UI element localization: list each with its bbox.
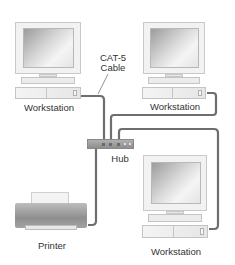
workstation-bottom-right xyxy=(143,155,213,240)
monitor-screen xyxy=(23,28,74,68)
monitor xyxy=(143,155,207,211)
workstation-top-left xyxy=(15,22,83,102)
workstation-top-right xyxy=(143,22,211,102)
printer-tray xyxy=(25,225,77,230)
computer-tower xyxy=(15,87,81,99)
label-workstation-top-right: Workstation xyxy=(140,101,210,112)
hub-port xyxy=(102,143,105,146)
cable-printer-hub xyxy=(88,148,96,225)
monitor-screen xyxy=(150,28,199,68)
computer-tower xyxy=(142,225,208,238)
monitor-base xyxy=(148,77,200,84)
monitor xyxy=(143,22,205,74)
monitor-base xyxy=(21,77,75,84)
label-hub: Hub xyxy=(105,153,135,164)
monitor-base xyxy=(148,214,202,222)
monitor-screen xyxy=(151,162,201,204)
label-workstation-top-left: Workstation xyxy=(14,102,84,113)
hub-led xyxy=(124,143,126,145)
label-cat5-line2: Cable xyxy=(97,63,129,73)
label-printer: Printer xyxy=(22,240,82,251)
hub-led xyxy=(129,143,131,145)
printer xyxy=(15,192,89,234)
hub-port xyxy=(109,143,112,146)
hub-port xyxy=(117,143,120,146)
label-cat5: CAT-5 Cable xyxy=(97,53,129,73)
monitor xyxy=(15,22,81,74)
label-workstation-bottom-right: Workstation xyxy=(140,246,212,257)
hub xyxy=(87,139,134,149)
cable-label-leader xyxy=(98,74,108,94)
computer-tower xyxy=(142,87,206,99)
